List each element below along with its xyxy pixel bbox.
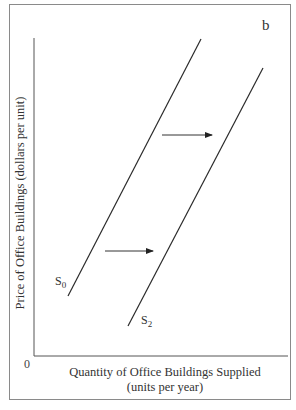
s0-label-main: S	[55, 274, 62, 288]
s2-label-main: S	[141, 313, 148, 327]
chart-canvas	[0, 0, 296, 410]
x-axis-label: Quantity of Office Buildings Supplied (u…	[40, 365, 290, 395]
origin-label: 0	[24, 357, 30, 372]
x-axis-title: Quantity of Office Buildings Supplied	[40, 365, 290, 380]
panel-label: b	[262, 17, 270, 34]
s0-label-sub: 0	[62, 280, 67, 290]
s2-label-sub: 2	[148, 319, 153, 329]
s2-label: S2	[141, 313, 152, 329]
s0-label: S0	[55, 274, 66, 290]
x-axis-units: (units per year)	[40, 380, 290, 395]
supply-curve-s0	[68, 39, 201, 296]
y-axis-label: Price of Office Buildings (dollars per u…	[13, 97, 28, 310]
supply-curve-s2	[128, 68, 263, 326]
